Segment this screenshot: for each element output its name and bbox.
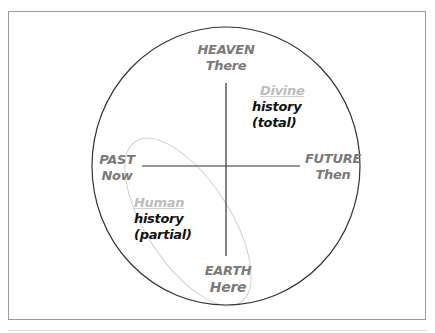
human-heading: Human — [134, 195, 196, 211]
pole-label-left: PAST Now — [96, 152, 138, 184]
pole-label-right: FUTURE Then — [303, 151, 363, 183]
pole-bottom-line1: EARTH — [198, 263, 258, 279]
quadrant-label-divine: Divine history (total) — [252, 83, 308, 131]
divine-line2: (total) — [252, 115, 308, 131]
pole-right-line1: FUTURE — [303, 151, 363, 167]
pole-bottom-line2: Here — [198, 279, 258, 295]
pole-label-bottom: EARTH Here — [198, 263, 258, 295]
pole-top-line2: There — [186, 58, 266, 74]
pole-left-line2: Now — [96, 168, 138, 184]
pole-right-line2: Then — [303, 167, 363, 183]
divine-heading: Divine — [252, 83, 308, 99]
pole-label-top: HEAVEN There — [186, 42, 266, 74]
quadrant-label-human: Human history (partial) — [134, 195, 196, 243]
human-line1: history — [134, 211, 196, 227]
divine-line1: history — [252, 99, 308, 115]
pole-top-line1: HEAVEN — [186, 42, 266, 58]
pole-left-line1: PAST — [96, 152, 138, 168]
human-line2: (partial) — [134, 227, 196, 243]
